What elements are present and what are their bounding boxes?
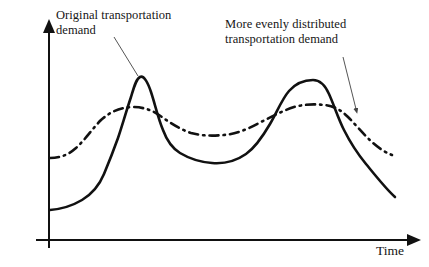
transportation-demand-figure: Original transportation demand More even… [0, 0, 429, 267]
series-more-evenly-distributed-demand [50, 104, 392, 158]
annotation-original-transportation-demand: Original transportation demand [56, 8, 206, 39]
annotation-more-evenly-distributed-demand: More evenly distributed transportation d… [225, 17, 400, 48]
leader-line-original [114, 37, 138, 76]
x-axis-label: Time [376, 243, 404, 259]
series-original-transportation-demand [50, 77, 395, 210]
leader-line-even [343, 57, 356, 109]
